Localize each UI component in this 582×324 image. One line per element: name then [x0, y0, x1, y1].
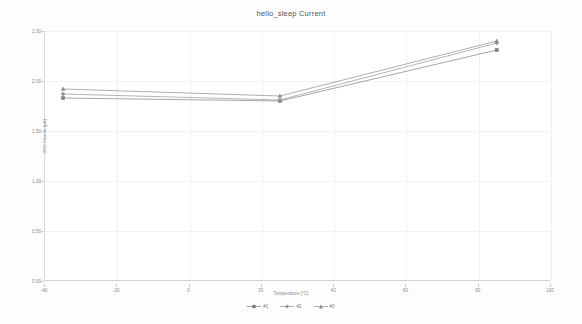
data-point-marker [495, 48, 498, 51]
y-axis-tick-mark [41, 281, 44, 282]
x-axis-tick-mark [44, 284, 45, 287]
x-axis-tick-mark [405, 284, 406, 287]
plot-area [44, 31, 550, 281]
chart-container: hello_sleep Current 0.000.501.001.502.00… [0, 0, 582, 324]
series-3 [61, 39, 499, 98]
series-line [63, 41, 497, 96]
y-axis-tick-label: 1.50 [32, 129, 41, 134]
y-axis-title: VDD Current [µA] [42, 77, 47, 197]
y-axis-tick-mark [41, 231, 44, 232]
data-point-marker [61, 96, 64, 99]
legend-item-2[interactable]: #2 [280, 304, 301, 309]
data-point-marker [495, 39, 499, 43]
legend-marker-icon [247, 304, 261, 309]
y-axis-tick-label: 0.00 [32, 279, 41, 284]
legend-marker-icon [314, 304, 328, 309]
x-axis-tick-mark [333, 284, 334, 287]
y-axis-tick-label: 2.50 [32, 29, 41, 34]
x-axis-tick-mark [116, 284, 117, 287]
legend-item-label: #3 [330, 304, 335, 309]
x-axis-tick-mark [261, 284, 262, 287]
data-point-marker [61, 92, 65, 96]
x-axis-tick-mark [550, 284, 551, 287]
legend-item-1[interactable]: #1 [247, 304, 268, 309]
y-axis-tick-label: 1.00 [32, 179, 41, 184]
legend-item-label: #2 [296, 304, 301, 309]
legend-item-3[interactable]: #3 [314, 304, 335, 309]
x-axis-tick-mark [189, 284, 190, 287]
y-axis-tick-label: 0.50 [32, 229, 41, 234]
legend-marker-icon [280, 304, 294, 309]
x-axis-title: Temperature [°C] [0, 291, 582, 296]
series-lines [45, 31, 551, 281]
y-axis-tick-labels: 0.000.501.001.502.002.50 [18, 31, 41, 281]
y-axis-tick-label: 2.00 [32, 79, 41, 84]
chart-title: hello_sleep Current [0, 9, 582, 18]
legend-item-label: #1 [263, 304, 268, 309]
chart-legend: #1#2#3 [0, 304, 582, 309]
y-axis-tick-mark [41, 31, 44, 32]
gridline-vertical [551, 31, 552, 280]
series-2 [61, 41, 499, 102]
x-axis-tick-mark [478, 284, 479, 287]
